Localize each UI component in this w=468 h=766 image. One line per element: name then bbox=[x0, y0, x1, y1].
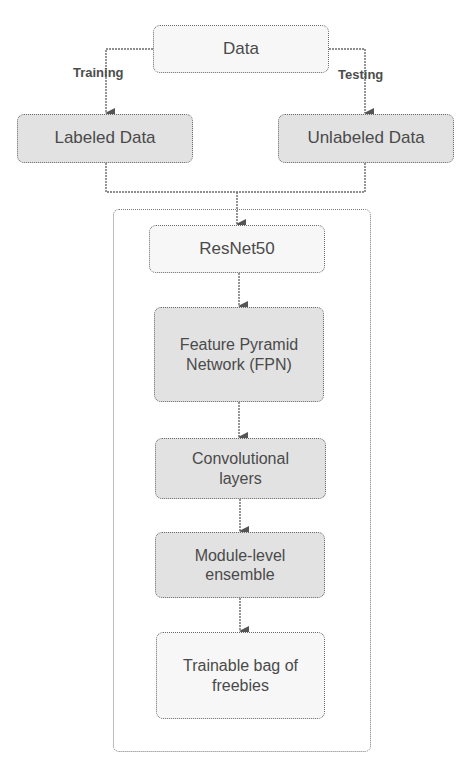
node-data: Data bbox=[153, 25, 329, 73]
node-resnet50: ResNet50 bbox=[149, 225, 325, 273]
node-convolutional-layers: Convolutional layers bbox=[155, 438, 326, 499]
node-unlabeled-data: Unlabeled Data bbox=[278, 114, 454, 163]
node-module-level-ensemble: Module-level ensemble bbox=[155, 532, 325, 598]
node-labeled-data: Labeled Data bbox=[17, 114, 193, 163]
edge-label-training: Training bbox=[73, 65, 124, 80]
node-fpn: Feature Pyramid Network (FPN) bbox=[154, 307, 324, 402]
edge-label-testing: Testing bbox=[338, 67, 383, 82]
node-trainable-bag-of-freebies: Trainable bag of freebies bbox=[156, 632, 325, 719]
